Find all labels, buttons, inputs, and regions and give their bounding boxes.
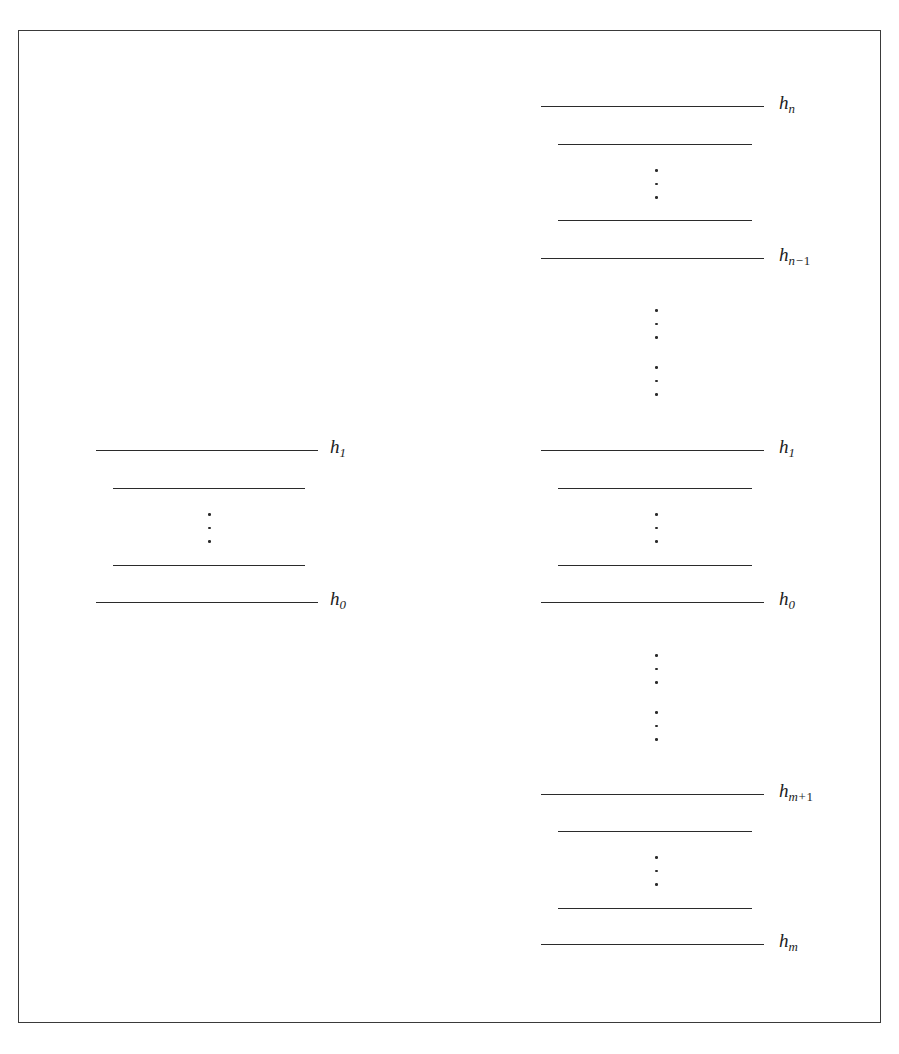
energy-level-line: [558, 144, 752, 145]
ellipsis-dot: [655, 883, 658, 886]
right-level-ladder: hnhn−1h1h0hm+1hm: [0, 0, 899, 1054]
ellipsis-dot: [655, 336, 658, 339]
figure-root: h1h0hnhn−1h1h0hm+1hm: [0, 0, 899, 1054]
energy-level-line: [558, 488, 752, 489]
level-label-r-hn1: hn−1: [779, 245, 810, 264]
level-label-r-h1: h1: [779, 437, 795, 456]
energy-level-line: [558, 565, 752, 566]
vertical-ellipsis: [654, 309, 659, 339]
level-label-r-hm1: hm+1: [779, 781, 813, 800]
ellipsis-dot: [655, 711, 658, 714]
level-label-base: h: [779, 780, 789, 801]
vertical-ellipsis: [654, 711, 659, 741]
level-label-base: h: [779, 588, 789, 609]
ellipsis-dot: [655, 540, 658, 543]
level-label-subscript: n−1: [789, 253, 811, 268]
level-label-r-hn: hn: [779, 93, 795, 112]
level-label-base: h: [779, 436, 789, 457]
ellipsis-dot: [655, 654, 658, 657]
ellipsis-dot: [655, 513, 658, 516]
level-label-subscript: n: [789, 101, 796, 116]
vertical-ellipsis: [654, 366, 659, 396]
energy-level-line-labeled: [541, 258, 764, 259]
energy-level-line-labeled: [541, 602, 764, 603]
vertical-ellipsis: [654, 856, 659, 886]
ellipsis-dot: [655, 738, 658, 741]
vertical-ellipsis: [654, 654, 659, 684]
level-label-subscript: 0: [789, 597, 796, 612]
energy-level-line: [558, 220, 752, 221]
vertical-ellipsis: [654, 169, 659, 199]
vertical-ellipsis: [654, 513, 659, 543]
energy-level-line: [558, 831, 752, 832]
level-label-r-hm: hm: [779, 931, 798, 950]
ellipsis-dot: [655, 681, 658, 684]
level-label-base: h: [779, 92, 789, 113]
level-label-r-h0: h0: [779, 589, 795, 608]
ellipsis-dot: [655, 393, 658, 396]
ellipsis-dot: [655, 196, 658, 199]
ellipsis-dot: [655, 169, 658, 172]
ellipsis-dot: [655, 309, 658, 312]
level-label-subscript: 1: [789, 445, 796, 460]
ellipsis-dot: [655, 527, 658, 530]
level-label-subscript: m: [789, 939, 799, 954]
energy-level-line-labeled: [541, 944, 764, 945]
ellipsis-dot: [655, 856, 658, 859]
energy-level-line-labeled: [541, 450, 764, 451]
energy-level-line-labeled: [541, 106, 764, 107]
level-label-subscript: m+1: [789, 789, 814, 804]
ellipsis-dot: [655, 870, 658, 873]
level-label-base: h: [779, 930, 789, 951]
ellipsis-dot: [655, 725, 658, 728]
ellipsis-dot: [655, 183, 658, 186]
ellipsis-dot: [655, 323, 658, 326]
energy-level-line: [558, 908, 752, 909]
ellipsis-dot: [655, 380, 658, 383]
energy-level-line-labeled: [541, 794, 764, 795]
level-label-base: h: [779, 244, 789, 265]
ellipsis-dot: [655, 366, 658, 369]
ellipsis-dot: [655, 668, 658, 671]
